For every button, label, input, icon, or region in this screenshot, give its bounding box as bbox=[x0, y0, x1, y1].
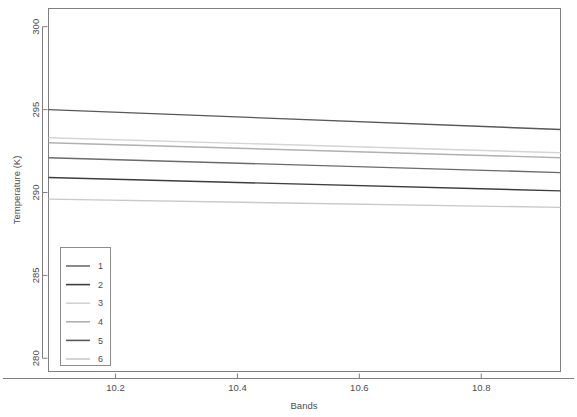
legend[interactable]: 123456 bbox=[61, 248, 111, 366]
x-axis-tick-label: 10.4 bbox=[228, 382, 247, 393]
x-axis-tick-label: 10.2 bbox=[106, 382, 125, 393]
y-axis-tick-label: 300 bbox=[30, 19, 41, 35]
y-axis-tick-label: 290 bbox=[30, 185, 41, 201]
legend-label-4: 4 bbox=[98, 317, 103, 327]
x-axis-title: Bands bbox=[291, 400, 318, 411]
x-axis-tick-label: 10.8 bbox=[472, 382, 491, 393]
legend-label-1: 1 bbox=[98, 261, 103, 271]
chart-container: 280285290295300 10.210.410.610.8 Tempera… bbox=[0, 0, 577, 417]
y-axis-tick-label: 285 bbox=[30, 267, 41, 283]
y-axis-tick-label: 295 bbox=[30, 102, 41, 118]
legend-label-2: 2 bbox=[98, 280, 103, 290]
y-axis-tick-label: 280 bbox=[30, 350, 41, 366]
legend-label-5: 5 bbox=[98, 336, 103, 346]
legend-label-6: 6 bbox=[98, 354, 103, 364]
y-axis-title: Temperature (K) bbox=[11, 156, 22, 225]
legend-label-3: 3 bbox=[98, 298, 103, 308]
x-axis-tick-label: 10.6 bbox=[350, 382, 369, 393]
temperature-vs-bands-line-chart: 280285290295300 10.210.410.610.8 Tempera… bbox=[0, 0, 577, 417]
